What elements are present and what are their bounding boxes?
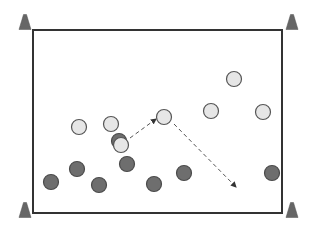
light-player-2 (104, 117, 119, 132)
cone-top-right-icon (286, 15, 298, 30)
dark-player-7 (265, 166, 280, 181)
drill-diagram (0, 0, 314, 230)
light-player-3 (157, 110, 172, 125)
light-player-ball-carrier (114, 138, 129, 153)
dark-player-3 (92, 178, 107, 193)
light-player-4 (204, 104, 219, 119)
dark-player-2 (70, 162, 85, 177)
dark-player-5 (147, 177, 162, 192)
dark-player-6 (177, 166, 192, 181)
dark-player-1 (44, 175, 59, 190)
pass-arrow (130, 119, 156, 138)
dark-player-4 (120, 157, 135, 172)
cone-bottom-left-icon (19, 203, 31, 218)
drill-canvas (0, 0, 314, 230)
light-player-1 (72, 120, 87, 135)
light-player-6 (256, 105, 271, 120)
cone-top-left-icon (19, 15, 31, 30)
light-player-5 (227, 72, 242, 87)
cone-bottom-right-icon (286, 203, 298, 218)
